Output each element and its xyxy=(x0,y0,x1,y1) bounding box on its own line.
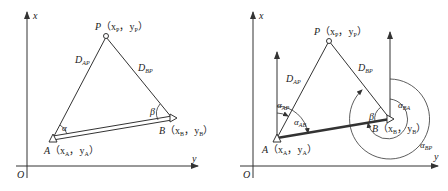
right-diagram: x y O β αAP αAB αBA αBP DAP DBP P（xP，yP）… xyxy=(240,10,439,180)
point-A-label: A（xA，yA） xyxy=(261,144,317,156)
diagram-canvas: x y O α β DAP DBP P（xP，yP） A（xA，yA） B（xB… xyxy=(0,0,448,191)
angle-BA-label: αBA xyxy=(398,100,410,111)
angle-alpha-label: α xyxy=(62,123,67,133)
point-P-marker xyxy=(327,39,332,44)
angle-AP-label: αAP xyxy=(277,100,289,111)
point-P-label: P（xP，yP） xyxy=(313,26,367,38)
y-axis-label: y xyxy=(433,151,439,162)
point-B-label: B（xB，yB） xyxy=(159,125,213,137)
side-AP-label: DAP xyxy=(285,73,301,85)
origin-label: O xyxy=(243,169,250,180)
angle-AP-arc xyxy=(277,113,288,116)
side-BP-label: DBP xyxy=(137,62,153,74)
point-B-label: B（xB，yB） xyxy=(372,123,426,135)
angle-BP-label: αBP xyxy=(420,140,432,151)
angle-beta-label: β xyxy=(368,111,374,122)
y-axis-label: y xyxy=(191,153,197,164)
baseline-AB-outer xyxy=(53,120,172,140)
origin-label: O xyxy=(17,169,24,180)
side-BP-label: DBP xyxy=(357,62,373,74)
side-BP xyxy=(106,37,172,118)
x-axis-label: x xyxy=(32,10,38,21)
angle-AB-label: αAB xyxy=(294,117,306,128)
left-diagram: x y O α β DAP DBP P（xP，yP） A（xA，yA） B（xB… xyxy=(16,10,213,180)
side-AP-label: DAP xyxy=(74,54,90,66)
point-B-marker xyxy=(170,114,177,122)
point-P-label: P（xP，yP） xyxy=(94,21,148,33)
side-AP xyxy=(53,37,106,138)
baseline-AB xyxy=(53,116,172,136)
point-P-marker xyxy=(104,34,109,39)
angle-beta-label: β xyxy=(149,106,155,117)
x-axis-label: x xyxy=(258,10,264,21)
point-A-label: A（xA，yA） xyxy=(43,145,99,157)
